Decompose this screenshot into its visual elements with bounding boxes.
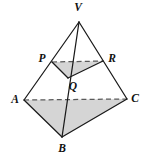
tetrahedron-diagram: VPRQACB [0, 0, 148, 159]
geometry-figure: VPRQACB [0, 0, 148, 159]
vertex-labels-group: VPRQACB [10, 1, 139, 154]
vertex-label-v: V [74, 1, 83, 13]
base-abc [24, 99, 127, 137]
vertex-label-c: C [131, 92, 139, 104]
vertex-label-q: Q [69, 80, 77, 92]
vertex-label-r: R [107, 52, 116, 64]
vertex-label-a: A [10, 93, 19, 105]
vertex-label-p: P [38, 52, 46, 64]
vertex-label-b: B [57, 142, 66, 154]
